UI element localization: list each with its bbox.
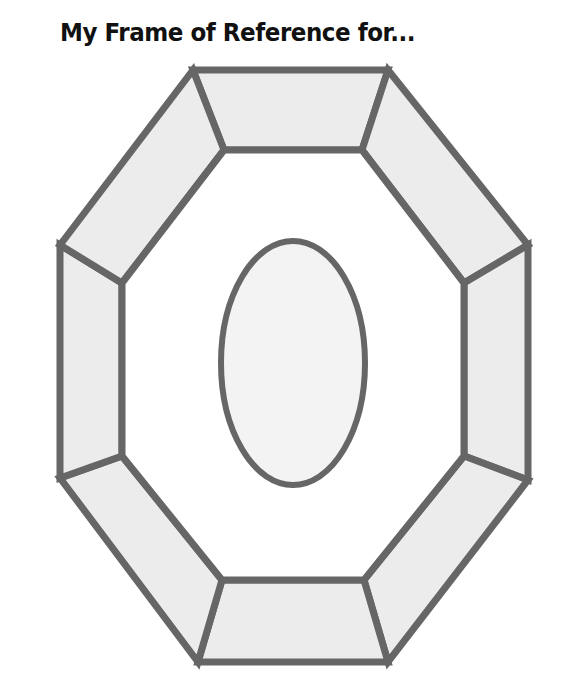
frame-diagram — [0, 0, 574, 689]
frame-segment-right[interactable] — [464, 245, 528, 480]
center-oval[interactable] — [221, 241, 365, 485]
frame-segment-bottom[interactable] — [198, 580, 388, 662]
